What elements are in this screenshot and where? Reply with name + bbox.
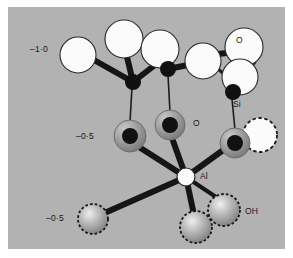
label-hydroxyl: OH xyxy=(245,207,258,216)
atom-aluminium-centre xyxy=(177,168,195,186)
label-oxygen-middle: O xyxy=(193,119,200,128)
label-silicon: Si xyxy=(233,100,241,109)
label-charge-minus-half-lower: –0·5 xyxy=(46,214,64,223)
atom-si-mid xyxy=(160,61,176,77)
molecular-structure-figure: –1·0 O Si O –0·5 Al –0·5 OH xyxy=(0,0,293,258)
atom-o-top-mid xyxy=(141,30,179,68)
atom-o-top-centre xyxy=(185,43,221,79)
atom-ob-mid-core xyxy=(162,117,178,133)
label-charge-minus-one: –1·0 xyxy=(30,45,48,54)
atom-ob-left-core xyxy=(122,128,138,144)
bond-al-oh-left xyxy=(100,177,186,215)
label-aluminium: Al xyxy=(200,172,208,181)
atom-o-left-outer xyxy=(60,37,96,73)
atom-si-left xyxy=(125,74,141,90)
atom-ob-right-core xyxy=(227,135,243,151)
atom-si-right xyxy=(225,84,241,100)
atom-o-top-left xyxy=(105,20,143,58)
atom-group-bridging-oxygen xyxy=(114,110,250,158)
atom-group-hydroxyl xyxy=(78,194,240,243)
bond-si-mid-ob-mid xyxy=(168,75,170,112)
atom-oh-mid xyxy=(180,211,212,243)
figure-plate: –1·0 O Si O –0·5 Al –0·5 OH xyxy=(8,7,285,249)
bond-si-left-ob-left xyxy=(130,87,132,122)
atom-oh-left xyxy=(78,204,108,234)
atom-oh-right xyxy=(208,194,240,226)
atom-group-oxygen-white xyxy=(60,20,263,95)
label-oxygen-top-right: O xyxy=(236,36,243,45)
label-charge-minus-half-upper: –0·5 xyxy=(76,132,94,141)
